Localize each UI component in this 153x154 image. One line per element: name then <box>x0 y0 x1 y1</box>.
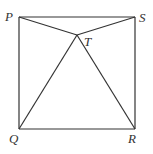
segment-rt <box>77 35 135 129</box>
segment-st <box>77 17 135 35</box>
label-p: P <box>4 9 13 24</box>
label-s: S <box>139 10 146 25</box>
square-diagram: P S T Q R <box>0 0 153 154</box>
segment-pt <box>19 17 77 35</box>
segment-qt <box>19 35 77 129</box>
label-q: Q <box>9 131 19 146</box>
label-r: R <box>127 131 136 146</box>
label-t: T <box>84 34 92 49</box>
